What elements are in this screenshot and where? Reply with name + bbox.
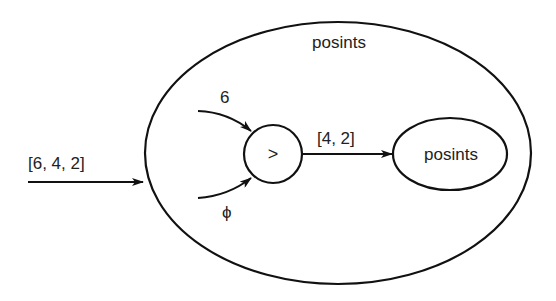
inner-posints-label: posints <box>424 145 478 164</box>
upper-input-label: 6 <box>220 88 229 107</box>
comparator-label: > <box>268 144 279 164</box>
lower-input-arrow <box>198 178 251 198</box>
input-label: [6, 4, 2] <box>28 154 85 173</box>
output-label: [4, 2] <box>317 129 355 148</box>
diagram-canvas: posints [6, 4, 2] 6 ϕ > [4, 2] posints <box>0 0 556 301</box>
lower-input-label: ϕ <box>222 203 232 222</box>
upper-input-arrow <box>198 111 251 131</box>
outer-posints-label: posints <box>312 33 366 52</box>
